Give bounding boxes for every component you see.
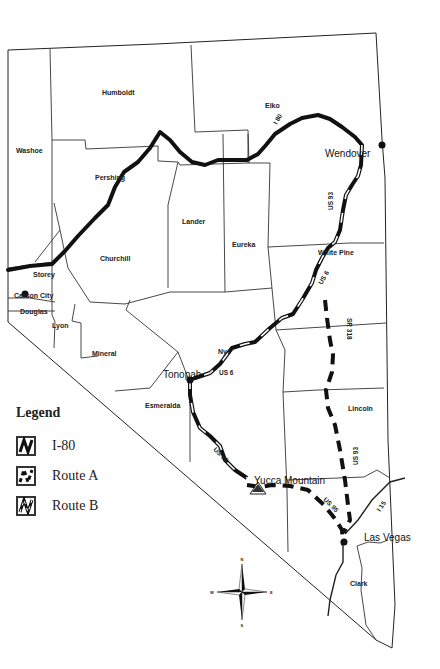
road-label-i-15: I 15 (375, 499, 387, 512)
county-label-washoe: Washoe (16, 147, 43, 154)
county-label-churchill: Churchill (100, 255, 130, 262)
route-a-legend-icon (16, 466, 36, 486)
county-label-humboldt: Humboldt (102, 89, 135, 96)
county-label-douglas: Douglas (20, 308, 48, 316)
city-label-wendover: Wendover (325, 148, 371, 159)
i80-legend-icon (16, 436, 36, 456)
i15-road (345, 478, 405, 534)
county-label-clark: Clark (350, 580, 368, 587)
legend-label-route-b: Route B (52, 498, 98, 514)
county-label-lyon: Lyon (52, 322, 68, 330)
legend-item-route-b: Route B (16, 491, 98, 521)
county-label-lincoln: Lincoln (348, 405, 373, 412)
compass-e: E (270, 590, 273, 595)
county-label-mineral: Mineral (92, 350, 117, 357)
wendover-marker (379, 142, 386, 149)
compass-w: W (210, 590, 214, 595)
road-label-sr-318: SR 318 (346, 318, 353, 340)
county-label-carson-city: Carson City (14, 292, 53, 300)
legend-label-route-a: Route A (52, 468, 98, 484)
compass-s: S (241, 623, 244, 628)
county-label-storey: Storey (33, 271, 55, 279)
city-label-tonopah: Tonopah (163, 369, 201, 380)
county-boundaries (8, 45, 390, 640)
legend-label-i80: I-80 (52, 438, 75, 454)
legend-title: Legend (16, 405, 98, 421)
county-label-esmeralda: Esmeralda (145, 402, 181, 409)
road-label-us-6: US 6 (317, 269, 330, 285)
route-b-legend-icon (16, 496, 36, 516)
road-label-us-93: US 93 (327, 192, 334, 210)
road-label-us-6: US 6 (219, 369, 234, 376)
city-label-las-vegas: Las Vegas (364, 532, 411, 543)
compass-n: N (241, 557, 244, 562)
county-label-lander: Lander (182, 218, 206, 225)
county-label-white-pine: White Pine (318, 249, 354, 256)
county-label-pershing: Pershing (95, 174, 125, 182)
road-label-i-80: I 80 (272, 112, 284, 125)
i80-route[interactable] (8, 115, 362, 270)
city-label-yucca-mountain: Yucca Mountain (254, 475, 325, 486)
county-label-eureka: Eureka (232, 241, 255, 248)
legend-item-route-a: Route A (16, 461, 98, 491)
compass-rose-icon: N S E W (210, 557, 273, 628)
county-label-nye: Nye (218, 348, 231, 356)
las-vegas-marker (341, 539, 348, 546)
legend-item-i80: I-80 (16, 431, 98, 461)
county-label-elko: Elko (265, 102, 280, 109)
nevada-route-map: HumboldtElkoWashoePershingLanderEurekaWh… (0, 0, 440, 669)
city-labels: WendoverTonopahYucca MountainLas Vegas (163, 148, 411, 543)
road-label-us-93: US 93 (352, 447, 359, 465)
legend: Legend I-80 Route A Route B (16, 405, 98, 521)
